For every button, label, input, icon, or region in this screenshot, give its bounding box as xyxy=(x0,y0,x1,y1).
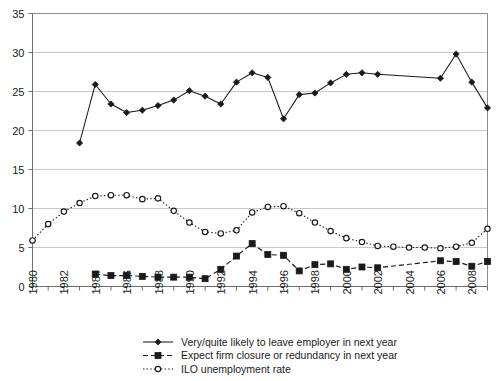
line-chart: 05101520253035 1980198219841986198819901… xyxy=(0,0,498,381)
data-point-square xyxy=(171,274,177,280)
data-point-square xyxy=(218,266,224,272)
x-tick-label: 2006 xyxy=(435,270,447,294)
data-point-circle xyxy=(375,243,380,248)
data-point-circle xyxy=(438,246,443,251)
data-point-circle xyxy=(155,196,160,201)
data-point-square xyxy=(296,268,302,274)
data-point-square xyxy=(437,258,443,264)
data-point-circle xyxy=(140,196,145,201)
data-point-square xyxy=(155,274,161,280)
data-point-square xyxy=(92,271,98,277)
data-point-circle xyxy=(312,220,317,225)
data-point-circle xyxy=(406,245,411,250)
data-point-square xyxy=(453,259,459,265)
data-point-circle xyxy=(265,204,270,209)
chart-background xyxy=(0,0,498,381)
y-tick-label: 0 xyxy=(18,281,24,293)
data-point-circle xyxy=(485,226,490,231)
data-point-square xyxy=(469,263,475,269)
y-tick-label: 25 xyxy=(12,86,24,98)
data-point-square xyxy=(312,262,318,268)
data-point-circle xyxy=(344,235,349,240)
x-tick-label: 1990 xyxy=(184,270,196,294)
data-point-square xyxy=(155,353,161,359)
y-tick-label: 35 xyxy=(12,8,24,20)
data-point-circle xyxy=(422,245,427,250)
data-point-circle xyxy=(77,200,82,205)
data-point-square xyxy=(108,273,114,279)
data-point-circle xyxy=(187,220,192,225)
data-point-circle xyxy=(108,193,113,198)
y-tick-label: 10 xyxy=(12,203,24,215)
legend-item-0: Very/quite likely to leave employer in n… xyxy=(143,336,397,348)
x-tick-label: 2002 xyxy=(372,270,384,294)
x-tick-label: 2004 xyxy=(404,270,416,294)
data-point-circle xyxy=(469,240,474,245)
x-tick-label: 1998 xyxy=(309,270,321,294)
data-point-square xyxy=(139,273,145,279)
data-point-circle xyxy=(124,193,129,198)
data-point-square xyxy=(343,266,349,272)
data-point-square xyxy=(124,273,130,279)
y-tick-label: 15 xyxy=(12,164,24,176)
y-tick-label: 20 xyxy=(12,125,24,137)
x-tick-label: 1992 xyxy=(215,270,227,294)
data-point-circle xyxy=(45,221,50,226)
x-tick-label: 2008 xyxy=(466,270,478,294)
data-point-square xyxy=(249,241,255,247)
data-point-circle xyxy=(281,203,286,208)
data-point-circle xyxy=(218,231,223,236)
data-point-circle xyxy=(61,209,66,214)
legend-label-1: Expect firm closure or redundancy in nex… xyxy=(181,349,398,361)
x-tick-label: 1980 xyxy=(27,270,39,294)
data-point-circle xyxy=(297,210,302,215)
data-point-circle xyxy=(202,229,207,234)
legend-item-1: Expect firm closure or redundancy in nex… xyxy=(143,349,398,361)
data-point-circle xyxy=(155,366,160,371)
data-point-square xyxy=(485,259,491,265)
y-tick-label: 5 xyxy=(18,242,24,254)
data-point-square xyxy=(375,265,381,271)
chart-canvas: 05101520253035 1980198219841986198819901… xyxy=(0,0,498,381)
x-tick-label: 2000 xyxy=(341,270,353,294)
data-point-circle xyxy=(328,228,333,233)
data-point-circle xyxy=(234,228,239,233)
data-point-square xyxy=(265,252,271,258)
data-point-circle xyxy=(30,238,35,243)
y-tick-label: 30 xyxy=(12,47,24,59)
data-point-circle xyxy=(171,208,176,213)
data-point-square xyxy=(186,274,192,280)
legend-label-2: ILO unemployment rate xyxy=(181,363,291,375)
legend-label-0: Very/quite likely to leave employer in n… xyxy=(181,336,397,348)
data-point-square xyxy=(359,264,365,270)
data-point-circle xyxy=(453,244,458,249)
data-point-circle xyxy=(391,244,396,249)
x-tick-label: 1982 xyxy=(58,270,70,294)
data-point-square xyxy=(202,276,208,282)
data-point-circle xyxy=(359,239,364,244)
x-tick-label: 1988 xyxy=(153,270,165,294)
data-point-square xyxy=(281,252,287,258)
x-tick-label: 1996 xyxy=(278,270,290,294)
data-point-square xyxy=(328,261,334,267)
x-tick-label: 1994 xyxy=(247,270,259,294)
data-point-circle xyxy=(249,210,254,215)
data-point-circle xyxy=(93,193,98,198)
data-point-square xyxy=(233,253,239,259)
